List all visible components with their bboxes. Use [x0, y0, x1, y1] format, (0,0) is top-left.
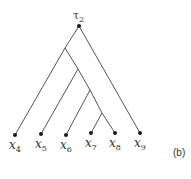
leaf-x8-node [113, 131, 117, 135]
leaf-label-x4: x4 [9, 138, 21, 154]
edge-root-x9 [79, 26, 140, 133]
leaf-x7-node [89, 131, 93, 135]
leaf-x9-node [138, 131, 142, 135]
edge-n1-x4 [15, 48, 65, 135]
root-node [77, 24, 81, 28]
leaf-x6-node [64, 133, 68, 137]
root-label: τ2 [73, 9, 84, 24]
leaf-label-x8: x8 [109, 136, 121, 152]
leaf-x4-node [13, 133, 17, 137]
tree-diagram: τ2 x4x5x6x7x8x9 (b) [0, 0, 191, 179]
edge-n2-n3 [78, 69, 90, 90]
edge-n3-x6 [66, 90, 90, 135]
tree-edges [15, 26, 140, 135]
leaf-label-x9: x9 [134, 136, 146, 152]
edge-root-n1 [65, 26, 79, 48]
leaf-labels: x4x5x6x7x8x9 [9, 136, 146, 154]
leaf-label-x7: x7 [85, 136, 97, 152]
leaf-x5-node [39, 132, 43, 136]
edge-n2-x5 [41, 69, 78, 134]
leaf-label-x6: x6 [60, 138, 72, 154]
leaf-label-x5: x5 [35, 137, 47, 153]
tree-nodes [13, 24, 142, 137]
edge-n3-n4 [90, 90, 102, 113]
panel-label: (b) [173, 147, 185, 158]
edge-n4-x7 [91, 113, 102, 133]
edge-n1-n2 [65, 48, 78, 69]
edge-n4-x8 [102, 113, 115, 133]
